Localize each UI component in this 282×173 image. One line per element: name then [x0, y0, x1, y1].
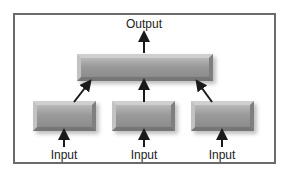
input-label-left: Input	[34, 148, 94, 162]
input-label-right: Input	[192, 148, 252, 162]
arrow-right-to-top	[199, 84, 212, 102]
input-label-middle: Input	[114, 148, 174, 162]
arrow-left-to-top	[74, 84, 88, 102]
output-label: Output	[114, 17, 174, 31]
